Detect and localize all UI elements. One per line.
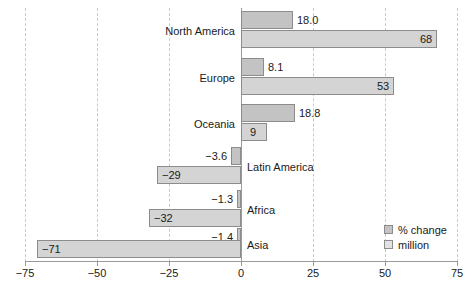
plot-area: 18.0 68 North America 8.1 53 Europe 18.8… <box>0 0 472 262</box>
bar-latin-america-pct-change <box>231 147 241 165</box>
category-label-europe: Europe <box>200 71 235 85</box>
bar-europe-million <box>241 77 394 95</box>
x-axis-tick-pos50 <box>385 261 386 266</box>
bar-africa-pct-change <box>237 190 241 208</box>
value-label-latin-america-pct-change: −3.6 <box>205 147 227 165</box>
legend: % change million <box>384 222 447 252</box>
category-label-africa: Africa <box>247 203 275 217</box>
bar-europe-pct-change <box>241 58 264 76</box>
value-label-oceania-million: 9 <box>250 123 256 141</box>
x-axis-tick-neg50 <box>97 261 98 266</box>
category-label-north-america: North America <box>165 24 235 38</box>
value-label-asia-million: −71 <box>42 240 61 258</box>
legend-swatch-icon-million <box>384 240 393 249</box>
x-axis-tick-neg75 <box>25 261 26 266</box>
x-axis-tick-label-neg50: −50 <box>88 267 107 279</box>
legend-label-million: million <box>398 239 429 251</box>
gridline-neg50 <box>97 8 98 262</box>
x-axis-tick-zero <box>241 261 242 266</box>
value-label-north-america-pct-change: 18.0 <box>297 11 318 29</box>
x-axis-tick-label-pos50: 50 <box>379 267 391 279</box>
category-label-oceania: Oceania <box>194 117 235 131</box>
bar-asia-million <box>37 240 241 258</box>
value-label-europe-million: 53 <box>377 77 389 95</box>
x-axis-tick-pos75 <box>457 261 458 266</box>
value-label-latin-america-million: −29 <box>162 166 181 184</box>
x-axis-tick-label-neg25: −25 <box>160 267 179 279</box>
bar-north-america-million <box>241 30 437 48</box>
x-axis-tick-label-neg75: −75 <box>16 267 35 279</box>
x-axis-tick-label-pos25: 25 <box>307 267 319 279</box>
value-label-oceania-pct-change: 18.8 <box>299 104 320 122</box>
value-label-africa-pct-change: −1.3 <box>211 190 233 208</box>
x-axis-tick-neg25 <box>169 261 170 266</box>
bar-oceania-pct-change <box>241 104 295 122</box>
value-label-africa-million: −32 <box>154 209 173 227</box>
x-axis-tick-label-zero: 0 <box>238 267 244 279</box>
gridline-neg75 <box>25 8 26 262</box>
legend-item-million[interactable]: million <box>384 237 447 252</box>
category-label-latin-america: Latin America <box>247 160 314 174</box>
value-label-europe-pct-change: 8.1 <box>268 58 283 76</box>
legend-item-pct-change[interactable]: % change <box>384 222 447 237</box>
legend-swatch-icon-pct-change <box>384 225 393 234</box>
value-label-north-america-million: 68 <box>420 30 432 48</box>
bar-chart: 18.0 68 North America 8.1 53 Europe 18.8… <box>0 0 472 288</box>
gridline-pos75 <box>457 8 458 262</box>
legend-label-pct-change: % change <box>398 224 447 236</box>
bar-north-america-pct-change <box>241 11 293 29</box>
x-axis-tick-label-pos75: 75 <box>451 267 463 279</box>
x-axis-tick-pos25 <box>313 261 314 266</box>
category-label-asia: Asia <box>247 238 268 252</box>
